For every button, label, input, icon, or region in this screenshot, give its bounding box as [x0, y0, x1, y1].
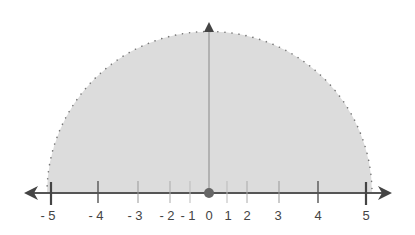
tick-label-neg1: - 1 — [180, 208, 195, 223]
diagram-canvas — [0, 0, 415, 235]
tick-label-0: 0 — [205, 208, 212, 223]
tick-label-neg4: - 4 — [88, 208, 103, 223]
tick-label-2: 2 — [243, 208, 250, 223]
tick-label-neg5: - 5 — [40, 208, 55, 223]
tick-label-5: 5 — [362, 208, 369, 223]
origin-dot — [204, 188, 214, 198]
tick-label-neg3: - 3 — [127, 208, 142, 223]
semicircle-diagram: - 5 - 4 - 3 - 2 - 1 0 1 2 3 4 5 — [0, 0, 415, 235]
tick-label-3: 3 — [274, 208, 281, 223]
up-arrow-icon — [204, 22, 214, 32]
tick-label-4: 4 — [314, 208, 321, 223]
tick-label-1: 1 — [224, 208, 231, 223]
tick-label-neg2: - 2 — [159, 208, 174, 223]
